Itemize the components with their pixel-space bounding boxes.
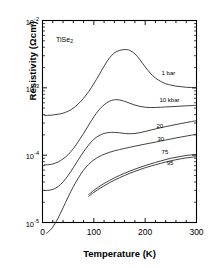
y-tick-exponent: -2 (34, 16, 39, 22)
figure-container: Resistivity (Ωcm) Temperature (K) TiSe2 … (0, 0, 212, 268)
sample-formula-subscript: 2 (70, 38, 73, 44)
y-tick-exponent: -3 (34, 83, 39, 89)
y-tick-label: 10-4 (6, 151, 39, 160)
y-tick-exponent: -5 (34, 218, 39, 224)
y-tick-mantissa: 10 (26, 17, 34, 26)
curve-label-10-kbar: 10 kbar (160, 97, 180, 103)
x-tick-label: 0 (28, 228, 58, 237)
y-tick-mantissa: 10 (26, 152, 34, 161)
curve-75-kbar (89, 154, 197, 194)
curve-label-20-kbar: 20 (156, 123, 163, 129)
curve-10-kbar (45, 100, 197, 165)
y-tick-label: 10-3 (6, 84, 39, 93)
curve-label-75-kbar: 75 (162, 149, 169, 155)
x-axis-label: Temperature (K) (42, 249, 197, 259)
y-tick-exponent: -4 (34, 150, 39, 156)
x-tick-label: 200 (130, 228, 160, 237)
x-tick-label: 100 (79, 228, 109, 237)
sample-annotation: TiSe2 (56, 36, 73, 45)
curve-label-30-kbar: 30 (157, 136, 164, 142)
y-tick-label: 10-5 (6, 219, 39, 228)
curve-1-bar (45, 50, 197, 116)
sample-formula-base: TiSe (56, 36, 70, 43)
data-curves (45, 50, 197, 233)
y-tick-label: 10-2 (6, 17, 39, 26)
curve-95-kbar (89, 157, 197, 197)
curve-label-1-bar: 1 bar (162, 70, 176, 76)
curve-label-95-kbar: 95 (167, 160, 174, 166)
x-tick-label: 300 (182, 228, 212, 237)
curve-30-kbar (47, 134, 197, 233)
y-tick-mantissa: 10 (26, 84, 34, 93)
